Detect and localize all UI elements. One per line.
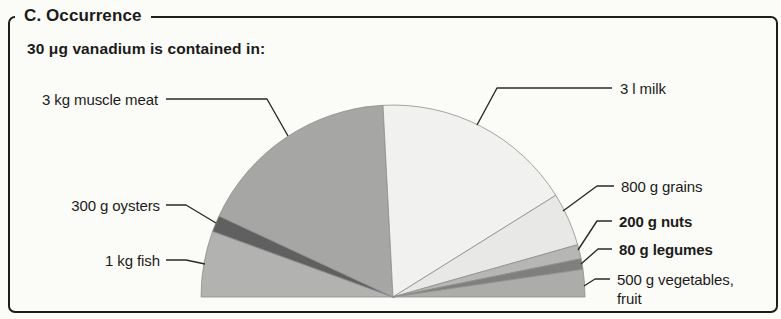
label-nuts: 200 g nuts (619, 212, 692, 231)
leader-line-vegetables_fruit (584, 279, 610, 286)
label-vegetables-fruit: 500 g vegetables, fruit (617, 270, 757, 308)
leader-line-oysters (166, 205, 216, 223)
leader-line-nuts (578, 221, 612, 250)
leader-line-milk (477, 88, 612, 125)
label-muscle-meat: 3 kg muscle meat (20, 90, 158, 109)
book-figure-page: { "panel": { "title": "C. Occurrence", "… (0, 0, 781, 319)
figure-title: C. Occurrence (15, 6, 151, 26)
leader-line-fish (166, 260, 205, 264)
label-milk: 3 l milk (620, 79, 666, 98)
label-oysters: 300 g oysters (40, 196, 160, 215)
label-legumes: 80 g legumes (619, 240, 713, 259)
leader-line-legumes (581, 249, 612, 264)
leader-line-grains (563, 186, 614, 211)
label-grains: 800 g grains (621, 177, 702, 196)
leader-line-muscle_meat (166, 99, 288, 136)
figure-subtitle: 30 μg vanadium is contained in: (27, 40, 265, 58)
label-fish: 1 kg fish (40, 251, 160, 270)
